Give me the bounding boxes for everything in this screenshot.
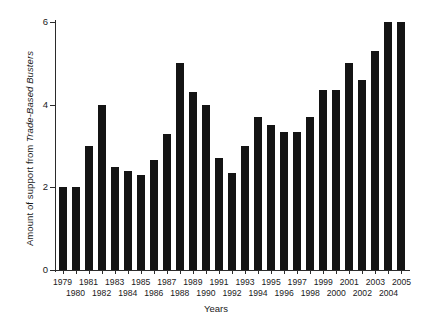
x-axis-tick — [245, 270, 246, 274]
bar — [280, 132, 288, 270]
y-axis-title-italic: Trade-Based Busters — [24, 51, 35, 142]
x-axis-tick-label: 1982 — [89, 289, 115, 298]
y-axis-tick — [50, 22, 55, 23]
x-axis-tick-label: 1993 — [232, 278, 258, 287]
x-axis-tick — [349, 270, 350, 274]
x-axis-tick — [89, 270, 90, 274]
x-axis-tick — [388, 270, 389, 274]
x-axis-tick — [115, 270, 116, 274]
x-axis-tick-label: 1995 — [258, 278, 284, 287]
x-axis-tick-label: 1992 — [219, 289, 245, 298]
y-axis-tick-label: 0 — [30, 265, 48, 275]
bar — [85, 146, 93, 270]
bar — [397, 22, 405, 270]
x-axis-tick-label: 2003 — [362, 278, 388, 287]
y-axis-tick-label: 6 — [30, 17, 48, 27]
x-axis-tick — [193, 270, 194, 274]
bar — [189, 92, 197, 270]
x-axis-tick-label: 1984 — [115, 289, 141, 298]
y-axis-tick — [50, 105, 55, 106]
x-axis-tick — [206, 270, 207, 274]
bar — [163, 134, 171, 270]
x-axis-tick — [271, 270, 272, 274]
bar — [176, 63, 184, 270]
x-axis-title: Years — [0, 303, 432, 314]
x-axis-tick-label: 1980 — [63, 289, 89, 298]
plot-area — [56, 22, 408, 270]
x-axis-tick-label: 1985 — [128, 278, 154, 287]
x-axis-tick-label: 1988 — [167, 289, 193, 298]
bar — [293, 132, 301, 270]
x-axis-tick — [310, 270, 311, 274]
bar — [254, 117, 262, 270]
bar — [267, 125, 275, 270]
bar — [137, 175, 145, 270]
x-axis-tick-label: 1983 — [102, 278, 128, 287]
bar — [98, 105, 106, 270]
x-axis-tick — [336, 270, 337, 274]
bar — [215, 158, 223, 270]
x-axis-tick — [154, 270, 155, 274]
bar — [241, 146, 249, 270]
x-axis-tick — [297, 270, 298, 274]
x-axis-tick — [375, 270, 376, 274]
y-axis-tick — [50, 270, 55, 271]
bar — [59, 187, 67, 270]
x-axis-tick-label: 1979 — [50, 278, 76, 287]
bar — [111, 167, 119, 270]
x-axis-tick — [401, 270, 402, 274]
bar — [150, 160, 158, 270]
bar — [358, 80, 366, 270]
x-axis-tick-label: 2000 — [323, 289, 349, 298]
y-axis-tick-label: 4 — [30, 100, 48, 110]
bar — [72, 187, 80, 270]
x-axis-tick-label: 1989 — [180, 278, 206, 287]
x-axis-tick — [284, 270, 285, 274]
y-axis-title: Amount of support from Trade-Based Buste… — [24, 24, 35, 274]
x-axis-tick — [362, 270, 363, 274]
x-axis-tick-label: 1999 — [310, 278, 336, 287]
x-axis-tick-label: 1997 — [284, 278, 310, 287]
x-axis-tick — [323, 270, 324, 274]
x-axis-tick-label: 2004 — [375, 289, 401, 298]
x-axis-tick-label: 2005 — [388, 278, 414, 287]
y-axis-tick — [50, 187, 55, 188]
x-axis-tick — [76, 270, 77, 274]
x-axis-tick — [128, 270, 129, 274]
bar — [371, 51, 379, 270]
x-axis-tick-label: 1998 — [297, 289, 323, 298]
bar — [345, 63, 353, 270]
x-axis-tick — [141, 270, 142, 274]
x-axis-tick — [219, 270, 220, 274]
bar — [228, 173, 236, 270]
x-axis-tick-label: 1996 — [271, 289, 297, 298]
bar — [332, 90, 340, 270]
y-axis-tick-label: 2 — [30, 182, 48, 192]
x-axis-tick — [63, 270, 64, 274]
y-axis-title-prefix: Amount of support from — [24, 142, 35, 246]
bar — [202, 105, 210, 270]
x-axis-tick — [102, 270, 103, 274]
bar-chart: Amount of support from Trade-Based Buste… — [0, 0, 432, 334]
x-axis-tick-label: 1987 — [154, 278, 180, 287]
x-axis-tick-label: 1994 — [245, 289, 271, 298]
bar — [306, 117, 314, 270]
x-axis-tick-label: 1991 — [206, 278, 232, 287]
x-axis-tick-label: 2001 — [336, 278, 362, 287]
x-axis-tick — [258, 270, 259, 274]
x-axis-tick — [167, 270, 168, 274]
x-axis-tick-label: 2002 — [349, 289, 375, 298]
x-axis-tick-label: 1986 — [141, 289, 167, 298]
x-axis-tick-label: 1981 — [76, 278, 102, 287]
x-axis-tick — [180, 270, 181, 274]
bar — [319, 90, 327, 270]
bar — [124, 171, 132, 270]
x-axis-tick — [232, 270, 233, 274]
x-axis-tick-label: 1990 — [193, 289, 219, 298]
bar — [384, 22, 392, 270]
